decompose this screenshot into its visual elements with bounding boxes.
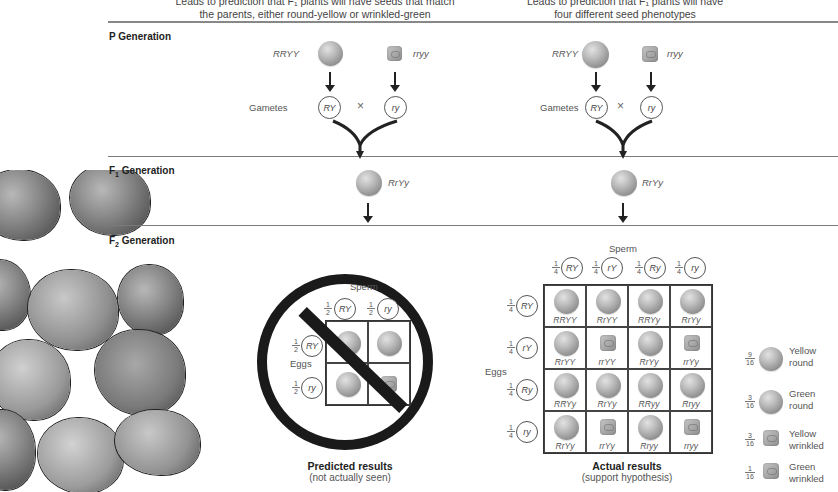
f1-left-pea-icon xyxy=(356,170,382,196)
arrow-down-icon xyxy=(595,72,597,86)
round-yellow-pea-icon xyxy=(554,331,579,356)
actual-sperm-fraction: 14 xyxy=(552,260,560,275)
actual-egg-gamete-3: Ry xyxy=(516,379,538,401)
actual-egg-gamete-1: RY xyxy=(516,295,538,317)
hypothesis-left-line1: Leads to prediction that F₁ plants will … xyxy=(150,0,480,8)
predicted-sperm-fraction: 12 xyxy=(324,301,332,316)
wrinkled-pea-icon xyxy=(600,335,616,351)
predicted-results-subtitle: (not actually seen) xyxy=(290,472,410,483)
actual-cell: Rryy xyxy=(628,411,670,453)
f1-right-genotype: RrYy xyxy=(642,177,663,188)
divider-f1-f2 xyxy=(108,225,838,226)
round-yellow-pea-icon xyxy=(336,372,361,397)
round-yellow-pea-icon xyxy=(596,289,621,314)
actual-sperm-gamete-4: ry xyxy=(684,257,706,279)
predicted-egg-fraction: 12 xyxy=(292,380,300,395)
actual-egg-fraction: 14 xyxy=(507,382,515,397)
hypothesis-left: Leads to prediction that F₁ plants will … xyxy=(150,0,480,21)
round-yellow-pea-icon xyxy=(377,331,402,356)
actual-cell: RrYy xyxy=(544,411,586,453)
actual-eggs-label: Eggs xyxy=(485,366,507,377)
wrinkled-green-pea-icon xyxy=(387,46,402,61)
actual-sperm-gamete-2: rY xyxy=(601,257,623,279)
arrow-down-icon xyxy=(329,72,331,86)
actual-sperm-fraction: 14 xyxy=(592,260,600,275)
wrinkled-pea-icon xyxy=(684,335,700,351)
arrow-down-icon xyxy=(367,203,369,217)
merge-arrow-icon xyxy=(325,115,405,160)
predicted-eggs-label: Eggs xyxy=(290,358,312,369)
round-yellow-pea-icon xyxy=(554,289,579,314)
actual-egg-fraction: 14 xyxy=(507,424,515,439)
predicted-results-title: Predicted results xyxy=(300,460,400,472)
predicted-sperm-fraction: 12 xyxy=(367,301,375,316)
hypothesis-right-line2: four different seed phenotypes xyxy=(500,8,750,21)
arrow-down-icon xyxy=(650,72,652,86)
hypothesis-right: Leads to prediction that F₁ plants will … xyxy=(500,0,750,21)
left-gametes-label: Gametes xyxy=(249,102,288,113)
round-yellow-pea-icon xyxy=(554,415,579,440)
round-yellow-pea-icon xyxy=(638,289,663,314)
actual-egg-fraction: 14 xyxy=(507,340,515,355)
predicted-egg-gamete-2: ry xyxy=(301,377,323,399)
actual-cell: rryy xyxy=(670,411,712,453)
divider-top xyxy=(108,21,838,23)
actual-sperm-gamete-3: Ry xyxy=(644,257,666,279)
actual-cell: RRYy xyxy=(544,369,586,411)
predicted-sperm-gamete-2: ry xyxy=(377,298,399,320)
actual-cell: RrYy xyxy=(586,369,628,411)
predicted-punnett-square xyxy=(325,320,411,406)
wrinkled-green-pea-icon xyxy=(642,46,658,62)
f1-right-pea-icon xyxy=(611,170,637,196)
predicted-egg-gamete-1: RY xyxy=(301,335,323,357)
pea-seeds-photo xyxy=(0,170,210,492)
round-yellow-pea-icon xyxy=(582,41,609,68)
actual-cell: rrYy xyxy=(586,411,628,453)
actual-egg-gamete-4: ry xyxy=(516,421,538,443)
right-gametes-label: Gametes xyxy=(540,102,579,113)
actual-cell: RrYy xyxy=(628,327,670,369)
actual-cell: RRyy xyxy=(628,369,670,411)
actual-sperm-label: Sperm xyxy=(609,243,637,254)
wrinkled-pea-icon xyxy=(763,463,779,479)
actual-sperm-gamete-1: RY xyxy=(561,257,583,279)
round-yellow-pea-icon xyxy=(638,331,663,356)
actual-egg-gamete-2: rY xyxy=(516,337,538,359)
actual-cell: rrYY xyxy=(586,327,628,369)
round-green-pea-icon xyxy=(680,373,705,398)
round-pea-icon xyxy=(759,390,783,414)
predicted-cell xyxy=(368,321,410,363)
predicted-egg-fraction: 12 xyxy=(292,338,300,353)
divider-p-f1 xyxy=(108,156,838,157)
round-green-pea-icon xyxy=(638,415,663,440)
wrinkled-pea-icon xyxy=(600,419,616,435)
predicted-sperm-label: Sperm xyxy=(350,281,378,292)
f2-generation-label: F2 Generation xyxy=(109,235,175,248)
left-parent1-genotype: RRYY xyxy=(273,48,299,59)
actual-cell: RRYy xyxy=(628,285,670,327)
cross-symbol: × xyxy=(617,99,624,113)
round-yellow-pea-icon xyxy=(680,289,705,314)
arrow-down-icon xyxy=(622,203,624,217)
round-yellow-pea-icon xyxy=(596,373,621,398)
f1-left-genotype: RrYy xyxy=(388,177,409,188)
actual-punnett-square: RRYY RrYY RRYy RrYy RrYY rrYY RrYy rrYy … xyxy=(543,284,713,454)
actual-results-title: Actual results xyxy=(577,460,677,472)
round-pea-icon xyxy=(759,347,783,371)
actual-cell: rrYy xyxy=(670,327,712,369)
round-green-pea-icon xyxy=(638,373,663,398)
wrinkled-pea-icon xyxy=(763,430,779,446)
actual-cell: RRYY xyxy=(544,285,586,327)
predicted-sperm-gamete-1: RY xyxy=(334,298,356,320)
merge-arrow-icon xyxy=(590,115,660,160)
p-generation-label: P Generation xyxy=(109,31,171,42)
actual-results-subtitle: (support hypothesis) xyxy=(567,472,687,483)
actual-cell: RrYY xyxy=(586,285,628,327)
right-parent1-genotype: RRYY xyxy=(552,48,578,59)
round-yellow-pea-icon xyxy=(554,373,579,398)
hypothesis-right-line1: Leads to prediction that F₁ plants will … xyxy=(500,0,750,8)
actual-cell: Rryy xyxy=(670,369,712,411)
actual-sperm-fraction: 14 xyxy=(675,260,683,275)
actual-cell: RrYY xyxy=(544,327,586,369)
actual-sperm-fraction: 14 xyxy=(635,260,643,275)
